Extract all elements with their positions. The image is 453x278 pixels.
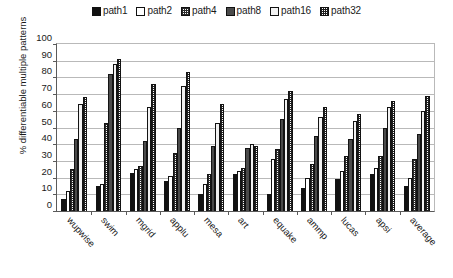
x-axis-label-art: art bbox=[236, 215, 251, 230]
y-axis-tick-labels: 1009080706050403020100 bbox=[26, 38, 52, 212]
bar-equake-path32[interactable] bbox=[288, 91, 292, 211]
y-tick-label-60: 60 bbox=[26, 100, 52, 110]
bar-mesa-path32[interactable] bbox=[220, 104, 224, 211]
bar-apsi-path32[interactable] bbox=[391, 101, 395, 211]
y-tick-label-80: 80 bbox=[26, 67, 52, 77]
y-tick-label-50: 50 bbox=[26, 117, 52, 127]
x-label-cell-wupwise: wupwise bbox=[56, 214, 90, 274]
x-label-cell-equake: equake bbox=[262, 214, 296, 274]
x-axis-label-mesa: mesa bbox=[202, 215, 225, 239]
x-label-cell-average: average bbox=[399, 214, 433, 274]
x-label-cell-lucas: lucas bbox=[330, 214, 364, 274]
y-tick-label-40: 40 bbox=[26, 133, 52, 143]
x-axis-label-average: average bbox=[408, 215, 438, 247]
bar-group-mesa bbox=[194, 44, 228, 211]
bar-ammp-path32[interactable] bbox=[323, 107, 327, 211]
bar-art-path32[interactable] bbox=[254, 146, 258, 211]
bar-mgrid-path32[interactable] bbox=[151, 84, 155, 211]
bar-swim-path32[interactable] bbox=[117, 59, 121, 211]
x-label-cell-art: art bbox=[227, 214, 261, 274]
bar-group-equake bbox=[263, 44, 297, 211]
y-tick-label-10: 10 bbox=[26, 184, 52, 194]
x-label-cell-mesa: mesa bbox=[193, 214, 227, 274]
bar-wupwise-path32[interactable] bbox=[83, 97, 87, 211]
bar-group-apsi bbox=[365, 44, 399, 211]
bar-group-wupwise bbox=[57, 44, 91, 211]
x-axis-category-labels: wupwiseswimmgridapplumesaartequakeammplu… bbox=[56, 214, 433, 274]
bar-lucas-path32[interactable] bbox=[357, 114, 361, 211]
y-tick-label-30: 30 bbox=[26, 150, 52, 160]
x-axis-label-lucas: lucas bbox=[339, 215, 361, 238]
y-tick-label-0: 0 bbox=[26, 200, 52, 210]
bar-groups bbox=[57, 44, 434, 211]
x-label-cell-swim: swim bbox=[90, 214, 124, 274]
bar-average-path32[interactable] bbox=[425, 96, 429, 211]
x-axis-label-swim: swim bbox=[99, 215, 121, 238]
x-label-cell-applu: applu bbox=[159, 214, 193, 274]
bar-group-ammp bbox=[297, 44, 331, 211]
y-tick-label-90: 90 bbox=[26, 50, 52, 60]
x-label-cell-apsi: apsi bbox=[364, 214, 398, 274]
x-axis-label-applu: applu bbox=[168, 215, 191, 239]
chart-plot-wrapper: % differentiable multiple patterns 10090… bbox=[0, 0, 453, 278]
bar-group-mgrid bbox=[126, 44, 160, 211]
y-tickmark bbox=[53, 211, 57, 212]
y-tick-label-70: 70 bbox=[26, 83, 52, 93]
x-axis-label-equake: equake bbox=[271, 215, 299, 245]
bar-group-art bbox=[228, 44, 262, 211]
x-label-cell-ammp: ammp bbox=[296, 214, 330, 274]
y-tick-label-100: 100 bbox=[26, 33, 52, 43]
x-axis-label-mgrid: mgrid bbox=[134, 215, 157, 239]
plot-area bbox=[56, 43, 435, 212]
bar-applu-path32[interactable] bbox=[186, 72, 190, 211]
bar-group-lucas bbox=[331, 44, 365, 211]
x-axis-label-apsi: apsi bbox=[373, 215, 392, 235]
bar-group-swim bbox=[91, 44, 125, 211]
bar-group-applu bbox=[160, 44, 194, 211]
x-label-cell-mgrid: mgrid bbox=[125, 214, 159, 274]
y-tick-label-20: 20 bbox=[26, 167, 52, 177]
x-axis-label-ammp: ammp bbox=[305, 215, 330, 241]
bar-group-average bbox=[400, 44, 434, 211]
